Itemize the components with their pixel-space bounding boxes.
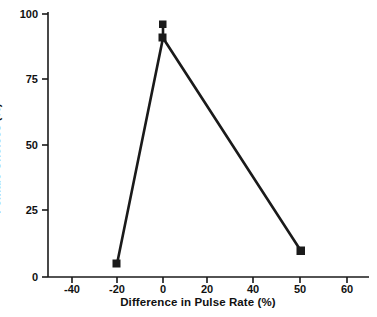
data-point-marker-minus20 [113,260,121,268]
data-point-marker-50 [297,247,306,256]
y-tick-marks [42,14,48,277]
plot-canvas [0,0,377,317]
data-point-marker-zero-lower [159,34,167,42]
figure: Female Choices (%) Difference in Pulse R… [0,0,377,317]
data-line-female-choices [117,38,301,264]
x-tick-marks [72,277,347,283]
data-point-marker-zero-upper [159,21,167,29]
